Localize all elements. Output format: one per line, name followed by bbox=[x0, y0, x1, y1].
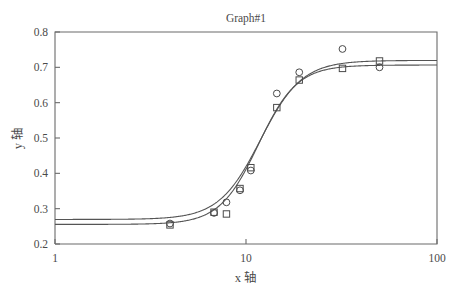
y-axis-label: y 轴 bbox=[10, 127, 25, 149]
y-tick-label: 0.3 bbox=[34, 203, 49, 215]
x-tick-label: 100 bbox=[428, 252, 446, 264]
chart-container: Graph#1 0.20.30.40.50.60.70.8 110100 x 轴… bbox=[0, 0, 461, 295]
y-tick-label: 0.8 bbox=[34, 26, 49, 38]
x-tick-label: 1 bbox=[52, 252, 58, 264]
y-tick-label: 0.4 bbox=[34, 167, 49, 179]
chart-title: Graph#1 bbox=[226, 12, 266, 25]
chart-background bbox=[0, 0, 461, 295]
y-tick-label: 0.2 bbox=[34, 238, 49, 250]
y-tick-label: 0.6 bbox=[34, 97, 49, 109]
y-tick-label: 0.7 bbox=[34, 61, 49, 73]
chart-svg: Graph#1 0.20.30.40.50.60.70.8 110100 x 轴… bbox=[0, 0, 461, 295]
x-axis-label: x 轴 bbox=[235, 270, 257, 285]
y-tick-label: 0.5 bbox=[34, 132, 49, 144]
x-tick-label: 10 bbox=[240, 252, 252, 264]
